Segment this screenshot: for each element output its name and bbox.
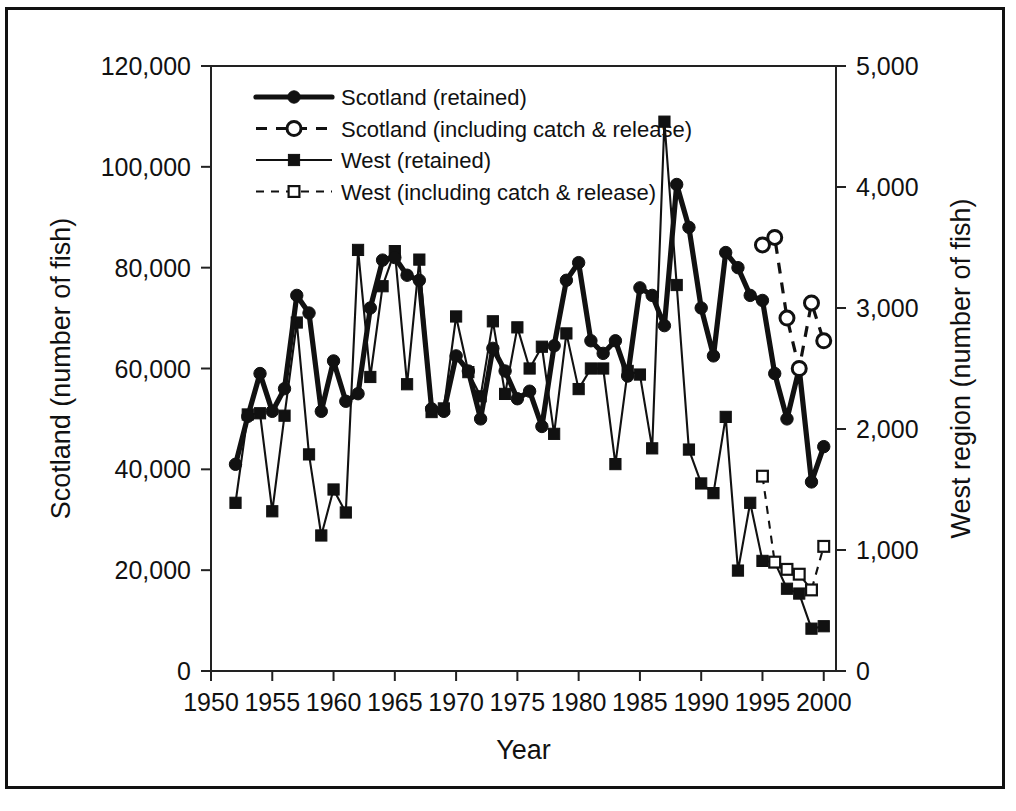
legend-label-3: West (retained) bbox=[341, 148, 491, 173]
series-line bbox=[236, 185, 824, 482]
x-tick-label: 1980 bbox=[551, 688, 607, 716]
axes-lines bbox=[211, 66, 836, 671]
series-west-including-catch-release bbox=[757, 471, 829, 596]
data-point bbox=[818, 440, 830, 452]
data-point bbox=[414, 254, 425, 265]
x-tick-label: 1955 bbox=[244, 688, 300, 716]
data-point bbox=[376, 254, 388, 266]
x-axis-ticks: 1950195519601965197019751980198519901995… bbox=[183, 671, 851, 716]
data-point bbox=[769, 367, 781, 379]
data-point bbox=[597, 347, 609, 359]
data-point bbox=[524, 363, 535, 374]
y2-axis-label: West region (number of fish) bbox=[946, 198, 976, 538]
chart-svg: 020,00040,00060,00080,000100,000120,000 … bbox=[8, 10, 1008, 792]
data-point bbox=[707, 350, 719, 362]
left-tick-label: 100,000 bbox=[101, 153, 191, 181]
left-axis-ticks: 020,00040,00060,00080,000100,000120,000 bbox=[101, 52, 211, 685]
data-point bbox=[757, 471, 768, 482]
data-point bbox=[425, 403, 437, 415]
data-point bbox=[512, 322, 523, 333]
data-point bbox=[683, 444, 694, 455]
data-point bbox=[585, 335, 597, 347]
data-point bbox=[266, 405, 278, 417]
data-point bbox=[671, 279, 682, 290]
data-point bbox=[291, 289, 303, 301]
data-point bbox=[598, 363, 609, 374]
data-point bbox=[670, 178, 682, 190]
legend-label-4: West (including catch & release) bbox=[341, 180, 656, 205]
data-point bbox=[720, 246, 732, 258]
data-point bbox=[560, 274, 572, 286]
data-point bbox=[548, 340, 560, 352]
data-point bbox=[462, 365, 474, 377]
data-point bbox=[364, 302, 376, 314]
data-point bbox=[549, 428, 560, 439]
legend-marker-2 bbox=[287, 122, 301, 136]
data-point bbox=[499, 365, 511, 377]
x-tick-label: 1990 bbox=[673, 688, 729, 716]
x-tick-label: 1995 bbox=[735, 688, 791, 716]
data-point bbox=[450, 311, 461, 322]
left-tick-label: 40,000 bbox=[115, 455, 191, 483]
data-point bbox=[634, 369, 645, 380]
right-axis-ticks: 01,0002,0003,0004,0005,000 bbox=[836, 52, 919, 685]
data-point bbox=[438, 405, 450, 417]
x-tick-label: 1970 bbox=[428, 688, 484, 716]
data-point bbox=[327, 355, 339, 367]
data-point bbox=[792, 362, 806, 376]
legend-marker-4 bbox=[289, 186, 300, 197]
figure-frame: 020,00040,00060,00080,000100,000120,000 … bbox=[5, 7, 1005, 789]
data-point bbox=[781, 413, 793, 425]
data-point bbox=[794, 569, 805, 580]
data-point bbox=[365, 371, 376, 382]
data-point bbox=[254, 367, 266, 379]
data-point bbox=[817, 334, 831, 348]
legend-label-2: Scotland (including catch & release) bbox=[341, 117, 692, 142]
data-point bbox=[756, 294, 768, 306]
data-point bbox=[646, 289, 658, 301]
data-point bbox=[229, 458, 241, 470]
legend-marker-1 bbox=[288, 91, 300, 103]
data-point bbox=[328, 484, 339, 495]
data-point bbox=[450, 350, 462, 362]
data-point bbox=[780, 311, 794, 325]
x-tick-label: 1975 bbox=[490, 688, 546, 716]
data-point bbox=[769, 557, 780, 568]
x-tick-label: 2000 bbox=[796, 688, 852, 716]
data-point bbox=[647, 443, 658, 454]
data-point bbox=[401, 379, 412, 390]
data-point bbox=[696, 478, 707, 489]
series-scotland-retained bbox=[229, 178, 830, 488]
data-point bbox=[401, 269, 413, 281]
left-tick-label: 120,000 bbox=[101, 52, 191, 80]
data-point bbox=[585, 363, 596, 374]
data-point bbox=[242, 410, 254, 422]
data-point bbox=[744, 289, 756, 301]
right-tick-label: 1,000 bbox=[856, 536, 919, 564]
data-point bbox=[315, 405, 327, 417]
x-tick-label: 1965 bbox=[367, 688, 423, 716]
data-point bbox=[352, 388, 364, 400]
data-point bbox=[732, 261, 744, 273]
data-point bbox=[267, 506, 278, 517]
x-axis-label: Year bbox=[496, 735, 551, 765]
data-point bbox=[523, 385, 535, 397]
data-point bbox=[708, 488, 719, 499]
data-point bbox=[804, 296, 818, 310]
data-point bbox=[634, 282, 646, 294]
data-point bbox=[695, 302, 707, 314]
data-point bbox=[536, 420, 548, 432]
data-point bbox=[413, 274, 425, 286]
x-tick-label: 1985 bbox=[612, 688, 668, 716]
data-point bbox=[303, 307, 315, 319]
data-point bbox=[511, 393, 523, 405]
right-tick-label: 4,000 bbox=[856, 173, 919, 201]
data-point bbox=[781, 583, 792, 594]
data-point bbox=[340, 395, 352, 407]
data-point bbox=[745, 497, 756, 508]
chart-legend: Scotland (retained)Scotland (including c… bbox=[256, 85, 692, 205]
data-point bbox=[720, 411, 731, 422]
left-tick-label: 80,000 bbox=[115, 254, 191, 282]
legend-label-1: Scotland (retained) bbox=[341, 85, 527, 110]
data-point bbox=[316, 530, 327, 541]
